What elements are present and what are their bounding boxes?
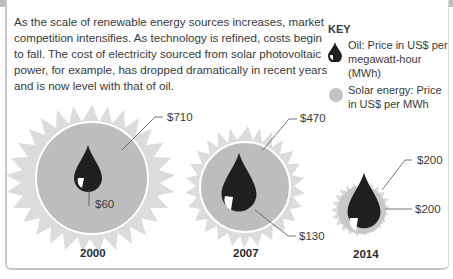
sun-2014 bbox=[331, 160, 412, 237]
sun-2000 bbox=[6, 105, 175, 253]
oil-label-2000: $60 bbox=[95, 198, 114, 210]
year-2000: 2000 bbox=[80, 247, 106, 259]
pictogram-chart: $710 $60 2000 $470 $130 2007 $200 $200 2… bbox=[0, 0, 453, 279]
year-2014: 2014 bbox=[353, 248, 379, 260]
solar-label-2014: $200 bbox=[417, 154, 443, 166]
oil-label-2007: $130 bbox=[299, 230, 325, 242]
solar-label-2000: $710 bbox=[167, 111, 193, 123]
year-2007: 2007 bbox=[233, 247, 259, 259]
solar-label-2007: $470 bbox=[300, 112, 326, 124]
sun-2007 bbox=[185, 119, 305, 248]
oil-label-2014: $200 bbox=[415, 203, 441, 215]
